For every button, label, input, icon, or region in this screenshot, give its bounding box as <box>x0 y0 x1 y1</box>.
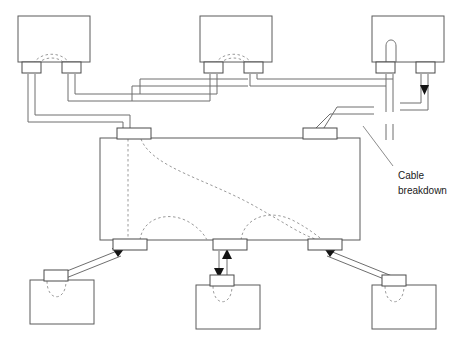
top-node-middle[interactable] <box>200 16 272 73</box>
annotation-leader-line <box>363 126 393 166</box>
backplane-bottom-port[interactable] <box>308 239 342 250</box>
backplane-top-port[interactable] <box>117 128 151 139</box>
cable-topleft-port2 <box>68 74 248 101</box>
node-box[interactable] <box>372 285 436 329</box>
node-box[interactable] <box>18 16 90 62</box>
cable-topmid-port2-b <box>257 74 393 79</box>
node-port[interactable] <box>416 62 435 73</box>
node-port[interactable] <box>244 62 263 73</box>
cable-topmid-port1-b <box>140 74 217 94</box>
backplane-bottom-port[interactable] <box>213 239 247 250</box>
network-topology-diagram: Cable breakdown <box>0 0 470 347</box>
top-node-left[interactable] <box>18 16 90 73</box>
node-port[interactable] <box>22 62 41 73</box>
node-port[interactable] <box>44 270 68 281</box>
cable-bottomright <box>330 251 392 276</box>
node-box[interactable] <box>372 16 444 62</box>
node-port[interactable] <box>382 275 406 286</box>
bottom-node-right[interactable] <box>372 275 436 329</box>
backplane-top-port[interactable] <box>303 128 337 139</box>
node-box[interactable] <box>200 16 272 62</box>
bottom-node-middle[interactable] <box>196 275 260 329</box>
node-port[interactable] <box>62 62 81 73</box>
network-diagram-canvas: Cable breakdown <box>0 0 470 347</box>
cable-bottomright-b <box>327 256 389 281</box>
bottom-node-left[interactable] <box>30 270 94 324</box>
annotation-label-line2: breakdown <box>398 185 447 196</box>
central-backplane[interactable] <box>100 128 360 250</box>
cable-bottomleft-b <box>61 256 121 280</box>
node-port[interactable] <box>204 62 223 73</box>
top-node-right[interactable] <box>372 16 444 73</box>
cable-topleft-port2-b <box>75 74 248 94</box>
annotation-label-line1: Cable <box>398 170 425 181</box>
node-box[interactable] <box>196 285 260 329</box>
node-port[interactable] <box>210 275 234 286</box>
cable-topmid-port2 <box>250 74 386 86</box>
node-box[interactable] <box>100 138 360 240</box>
node-box[interactable] <box>30 280 94 324</box>
cable-breakdown-annotation: Cable breakdown <box>363 126 447 196</box>
backplane-bottom-port[interactable] <box>113 239 147 250</box>
cable-central-topright-diag-b <box>322 107 374 131</box>
cable-topright-port2 <box>400 74 421 103</box>
node-port[interactable] <box>376 62 395 73</box>
cable-topmid-port1 <box>132 74 210 101</box>
